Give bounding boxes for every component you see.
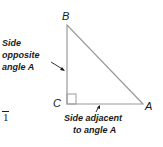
cropped-text-fragment: 1 <box>2 111 9 122</box>
vertex-label-c: C <box>53 97 61 109</box>
adjacent-label-line-1: Side adjacent <box>64 113 122 123</box>
opposite-label-line-3: angle A <box>2 62 34 72</box>
opposite-label-line-1: Side <box>2 38 21 48</box>
vertex-label-b: B <box>62 10 69 22</box>
triangle <box>67 25 143 104</box>
right-angle-marker <box>67 94 76 104</box>
adjacent-label-line-2: to angle A <box>73 125 116 135</box>
vertex-label-a: A <box>145 100 152 112</box>
opposite-label-line-2: opposite <box>2 50 40 60</box>
